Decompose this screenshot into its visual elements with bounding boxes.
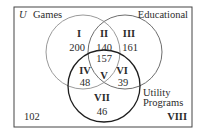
universe-label: U xyxy=(19,9,28,20)
region-V-label: V xyxy=(100,70,108,81)
region-VIII-count: 102 xyxy=(24,111,40,122)
region-II-count: 140 xyxy=(96,42,112,53)
venn-diagram: U Games Educational Utility Programs I 2… xyxy=(0,0,201,134)
region-VI-label: VI xyxy=(116,65,128,76)
region-I-count: 200 xyxy=(69,42,85,53)
region-III-count: 161 xyxy=(122,42,138,53)
region-II-label: II xyxy=(100,28,108,39)
region-IV-count: 48 xyxy=(80,77,91,88)
utility-label-line2: Programs xyxy=(143,97,183,108)
region-IV-label: IV xyxy=(79,65,91,76)
region-I-label: I xyxy=(77,28,81,39)
region-VIII-label: VIII xyxy=(167,111,187,122)
educational-label: Educational xyxy=(138,9,188,20)
region-III-label: III xyxy=(123,28,135,39)
region-V-count-top: 157 xyxy=(96,53,112,64)
region-VII-label: VII xyxy=(94,92,110,103)
region-VI-count: 39 xyxy=(118,77,129,88)
games-label: Games xyxy=(33,9,62,20)
region-VII-count: 46 xyxy=(97,106,108,117)
